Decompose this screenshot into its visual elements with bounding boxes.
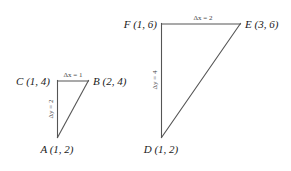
- left-delta-x-label: Δx = 1: [64, 71, 83, 79]
- vertex-label-d: D (1, 2): [143, 143, 179, 156]
- left-triangle: [58, 81, 89, 138]
- right-triangle: [162, 24, 241, 138]
- left-delta-y-label: Δy = 2: [47, 99, 55, 118]
- vertex-label-c: C (1, 4): [16, 75, 50, 88]
- vertex-label-f: F (1, 6): [123, 18, 158, 31]
- right-delta-y-label: Δy = 4: [151, 70, 159, 89]
- similar-triangles-diagram: C (1, 4) B (2, 4) A (1, 2) Δx = 1 Δy = 2…: [0, 0, 291, 171]
- right-triangle-edge-de: [162, 24, 241, 138]
- vertex-label-b: B (2, 4): [93, 75, 127, 88]
- vertex-label-a: A (1, 2): [39, 143, 73, 156]
- figure-canvas: C (1, 4) B (2, 4) A (1, 2) Δx = 1 Δy = 2…: [0, 0, 291, 171]
- left-triangle-edge-ab: [58, 81, 89, 138]
- right-delta-x-label: Δx = 2: [194, 14, 213, 22]
- vertex-label-e: E (3, 6): [244, 18, 279, 31]
